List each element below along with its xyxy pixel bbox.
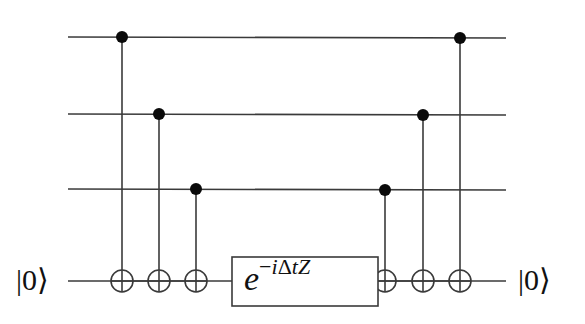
exp-z: Z	[298, 254, 310, 279]
control-dot-icon	[417, 109, 429, 121]
cnot-gate-6	[449, 32, 471, 292]
cnot-gate-2	[148, 108, 170, 292]
control-dot-icon	[153, 108, 165, 120]
wires	[68, 37, 506, 281]
cnot-gates	[111, 31, 471, 292]
wire-q0	[68, 37, 506, 38]
control-dot-icon	[190, 183, 202, 195]
cnot-gate-5	[412, 109, 434, 292]
control-dot-icon	[379, 184, 391, 196]
ancilla-output-ket: |0⟩	[518, 265, 551, 295]
ancilla-input-ket: |0⟩	[16, 265, 49, 295]
rotation-gate-exponent: −iΔtZ	[259, 254, 310, 279]
cnot-gate-3	[185, 183, 207, 292]
exp-delta: Δ	[278, 254, 292, 279]
exp-minus: −	[259, 254, 271, 279]
cnot-gate-1	[111, 31, 133, 292]
rotation-gate-base: e	[244, 260, 259, 297]
rotation-gate-label: e−iΔtZ	[244, 262, 310, 296]
wire-q2	[68, 189, 506, 190]
control-dot-icon	[454, 32, 466, 44]
control-dot-icon	[116, 31, 128, 43]
wire-q1	[68, 114, 506, 115]
